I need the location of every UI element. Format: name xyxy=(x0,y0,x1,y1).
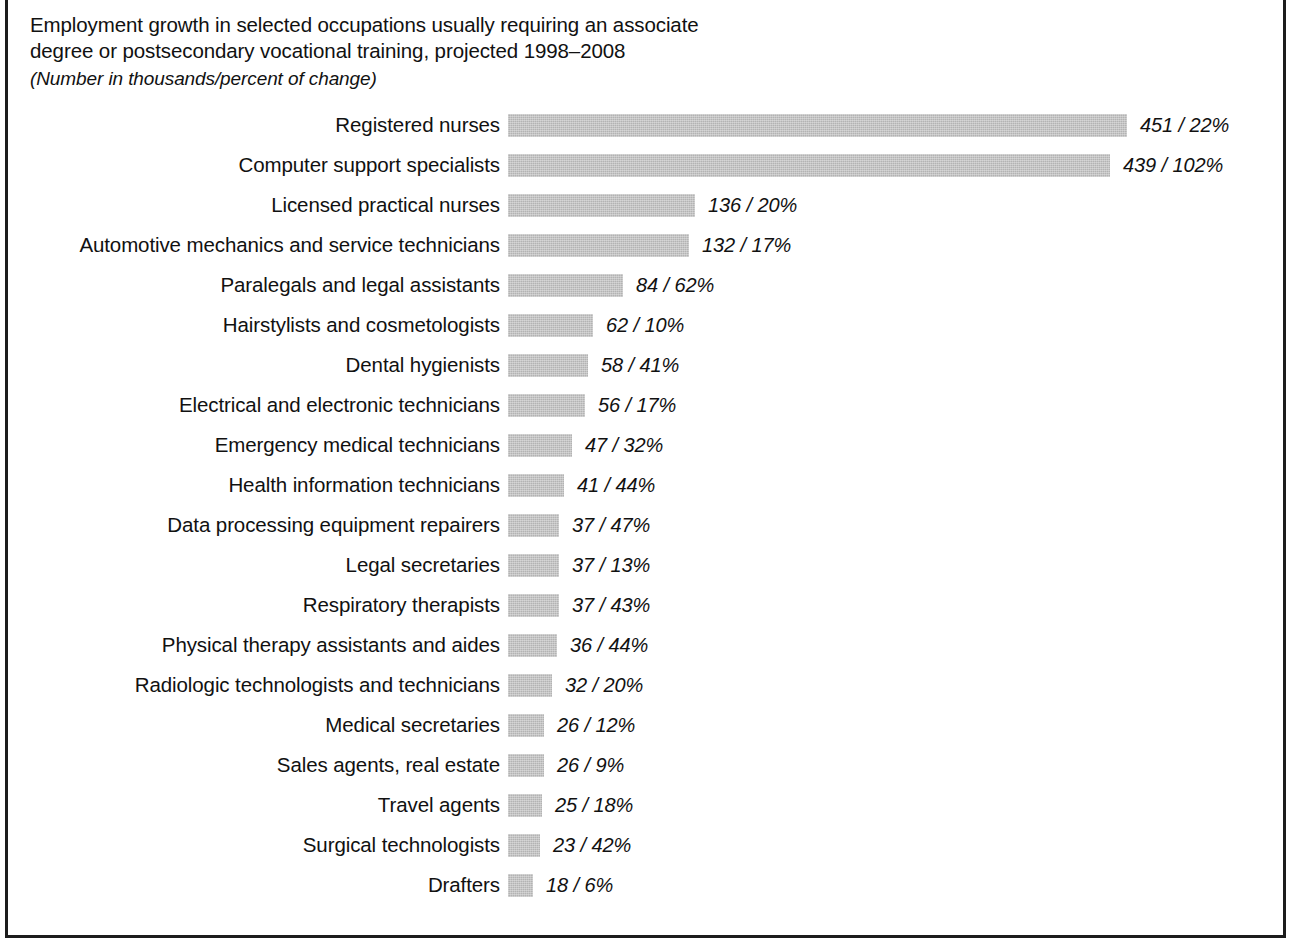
bar xyxy=(508,834,540,857)
bar-value-label: 18 / 6% xyxy=(546,874,613,897)
bar-and-value: 132 / 17% xyxy=(508,232,791,258)
bar-and-value: 84 / 62% xyxy=(508,272,714,298)
bar-category-label: Electrical and electronic technicians xyxy=(179,385,500,425)
bar-category-label: Dental hygienists xyxy=(346,345,500,385)
bar-and-value: 23 / 42% xyxy=(508,832,631,858)
bar-category-label: Registered nurses xyxy=(335,105,500,145)
bar xyxy=(508,634,557,657)
bar xyxy=(508,314,593,337)
chart-figure: Employment growth in selected occupation… xyxy=(0,0,1289,938)
bar-row: Dental hygienists58 / 41% xyxy=(0,345,1289,385)
bar-category-label: Sales agents, real estate xyxy=(277,745,500,785)
bar-and-value: 26 / 9% xyxy=(508,752,624,778)
bar-category-label: Paralegals and legal assistants xyxy=(220,265,500,305)
bar xyxy=(508,754,544,777)
bar-value-label: 25 / 18% xyxy=(555,794,633,817)
bar-row: Respiratory therapists37 / 43% xyxy=(0,585,1289,625)
bar-row: Drafters18 / 6% xyxy=(0,865,1289,905)
bar xyxy=(508,674,552,697)
bar-and-value: 36 / 44% xyxy=(508,632,648,658)
bar-and-value: 439 / 102% xyxy=(508,152,1223,178)
bar xyxy=(508,714,544,737)
bar xyxy=(508,514,559,537)
bar-category-label: Radiologic technologists and technicians xyxy=(135,665,500,705)
bar-category-label: Drafters xyxy=(428,865,500,905)
bar-row: Legal secretaries37 / 13% xyxy=(0,545,1289,585)
bar-value-label: 26 / 12% xyxy=(557,714,635,737)
bar-value-label: 439 / 102% xyxy=(1123,154,1223,177)
bar xyxy=(508,394,585,417)
bar-category-label: Surgical technologists xyxy=(303,825,500,865)
bar xyxy=(508,554,559,577)
bar-row: Medical secretaries26 / 12% xyxy=(0,705,1289,745)
bar xyxy=(508,354,588,377)
bar-value-label: 41 / 44% xyxy=(577,474,655,497)
bar-value-label: 37 / 13% xyxy=(572,554,650,577)
bar xyxy=(508,114,1127,137)
bar-row: Health information technicians41 / 44% xyxy=(0,465,1289,505)
bar-row: Electrical and electronic technicians56 … xyxy=(0,385,1289,425)
bar-category-label: Computer support specialists xyxy=(238,145,500,185)
bar-and-value: 37 / 13% xyxy=(508,552,650,578)
bar-row: Registered nurses451 / 22% xyxy=(0,105,1289,145)
bar xyxy=(508,474,564,497)
bar-and-value: 37 / 47% xyxy=(508,512,650,538)
bar-and-value: 25 / 18% xyxy=(508,792,633,818)
bar xyxy=(508,594,559,617)
chart-subtitle: (Number in thousands/percent of change) xyxy=(30,66,930,92)
chart-title-line-1: Employment growth in selected occupation… xyxy=(30,12,930,38)
bar-value-label: 62 / 10% xyxy=(606,314,684,337)
bar-value-label: 451 / 22% xyxy=(1140,114,1229,137)
bar-category-label: Licensed practical nurses xyxy=(271,185,500,225)
bar-and-value: 32 / 20% xyxy=(508,672,643,698)
bar-and-value: 58 / 41% xyxy=(508,352,679,378)
bar xyxy=(508,154,1110,177)
bar-category-label: Hairstylists and cosmetologists xyxy=(223,305,500,345)
bar-value-label: 37 / 43% xyxy=(572,594,650,617)
bar-and-value: 37 / 43% xyxy=(508,592,650,618)
bar-category-label: Medical secretaries xyxy=(325,705,500,745)
bar-value-label: 136 / 20% xyxy=(708,194,797,217)
bar-value-label: 56 / 17% xyxy=(598,394,676,417)
bar-row: Data processing equipment repairers37 / … xyxy=(0,505,1289,545)
bar-and-value: 41 / 44% xyxy=(508,472,655,498)
bar-category-label: Data processing equipment repairers xyxy=(167,505,500,545)
bar-value-label: 26 / 9% xyxy=(557,754,624,777)
bar-row: Sales agents, real estate26 / 9% xyxy=(0,745,1289,785)
bar-row: Radiologic technologists and technicians… xyxy=(0,665,1289,705)
bar-value-label: 36 / 44% xyxy=(570,634,648,657)
bar-value-label: 47 / 32% xyxy=(585,434,663,457)
bar xyxy=(508,274,623,297)
bar-and-value: 451 / 22% xyxy=(508,112,1229,138)
bar-category-label: Physical therapy assistants and aides xyxy=(162,625,500,665)
bar-value-label: 23 / 42% xyxy=(553,834,631,857)
bar xyxy=(508,194,695,217)
bar-and-value: 18 / 6% xyxy=(508,872,613,898)
bar-row: Travel agents25 / 18% xyxy=(0,785,1289,825)
bar xyxy=(508,874,533,897)
bar-value-label: 132 / 17% xyxy=(702,234,791,257)
bar-value-label: 37 / 47% xyxy=(572,514,650,537)
bar-and-value: 56 / 17% xyxy=(508,392,676,418)
bar-row: Licensed practical nurses136 / 20% xyxy=(0,185,1289,225)
bar-row: Emergency medical technicians47 / 32% xyxy=(0,425,1289,465)
bar xyxy=(508,794,542,817)
bar-value-label: 32 / 20% xyxy=(565,674,643,697)
bar-chart-plot: Registered nurses451 / 22%Computer suppo… xyxy=(0,105,1289,905)
bar-row: Computer support specialists439 / 102% xyxy=(0,145,1289,185)
bar-value-label: 58 / 41% xyxy=(601,354,679,377)
bar-and-value: 62 / 10% xyxy=(508,312,684,338)
bar-category-label: Travel agents xyxy=(378,785,500,825)
bar-value-label: 84 / 62% xyxy=(636,274,714,297)
bar-category-label: Emergency medical technicians xyxy=(215,425,500,465)
bar-and-value: 136 / 20% xyxy=(508,192,797,218)
bar-category-label: Automotive mechanics and service technic… xyxy=(79,225,500,265)
bar-row: Automotive mechanics and service technic… xyxy=(0,225,1289,265)
chart-title-block: Employment growth in selected occupation… xyxy=(30,12,930,92)
bar-category-label: Respiratory therapists xyxy=(303,585,500,625)
bar-row: Hairstylists and cosmetologists62 / 10% xyxy=(0,305,1289,345)
bar-and-value: 47 / 32% xyxy=(508,432,663,458)
bar-and-value: 26 / 12% xyxy=(508,712,635,738)
bar-row: Paralegals and legal assistants84 / 62% xyxy=(0,265,1289,305)
bar-category-label: Legal secretaries xyxy=(346,545,500,585)
